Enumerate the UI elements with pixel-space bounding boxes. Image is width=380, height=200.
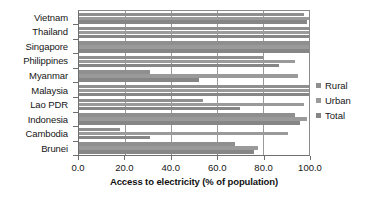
- bar: [79, 150, 254, 153]
- bar-row: [79, 128, 309, 131]
- y-tick-label: Vietnam: [0, 10, 72, 25]
- bar-row: [79, 56, 309, 59]
- bar-row: [79, 103, 309, 106]
- x-tickmark: [264, 156, 265, 160]
- bar: [79, 146, 258, 149]
- bar-row: [79, 17, 309, 20]
- bar-row: [79, 49, 309, 52]
- bar: [79, 31, 309, 34]
- plot-area: [78, 10, 310, 156]
- bar-row: [79, 113, 309, 116]
- bar-group: [79, 141, 309, 155]
- bar-row: [79, 78, 309, 81]
- bar: [79, 17, 309, 20]
- bar: [79, 142, 235, 145]
- bar: [79, 136, 150, 139]
- bar-row: [79, 121, 309, 124]
- bar-row: [79, 41, 309, 44]
- x-axis-title: Access to electricity (% of population): [78, 176, 310, 187]
- legend-label: Total: [325, 111, 345, 121]
- bar-row: [79, 150, 309, 153]
- bar: [79, 45, 309, 48]
- bar: [79, 74, 298, 77]
- legend-item: Total: [316, 108, 378, 123]
- bar-row: [79, 117, 309, 120]
- bar: [79, 20, 307, 23]
- bar: [79, 49, 309, 52]
- bar: [79, 121, 300, 124]
- bar-row: [79, 13, 309, 16]
- bar-row: [79, 70, 309, 73]
- bar-group: [79, 25, 309, 39]
- bar-row: [79, 99, 309, 102]
- bar-row: [79, 93, 309, 96]
- y-axis-category-labels: VietnamThailandSingaporePhilippinesMyanm…: [0, 10, 72, 156]
- bar-row: [79, 142, 309, 145]
- bar-row: [79, 31, 309, 34]
- y-tick-label: Malaysia: [0, 83, 72, 98]
- y-tick-label: Brunei: [0, 141, 72, 156]
- y-tick-label: Singapore: [0, 39, 72, 54]
- chart-legend: RuralUrbanTotal: [316, 78, 378, 123]
- y-tick-label: Thailand: [0, 25, 72, 40]
- y-tick-label: Myanmar: [0, 68, 72, 83]
- bar: [79, 85, 309, 88]
- x-tick-label: 40.0: [162, 161, 181, 174]
- legend-item: Rural: [316, 78, 378, 93]
- bar: [79, 70, 150, 73]
- bar: [79, 35, 309, 38]
- bar-group: [79, 97, 309, 111]
- x-tick-label: 80.0: [254, 161, 273, 174]
- x-tickmark: [171, 156, 172, 160]
- bar: [79, 27, 309, 30]
- bar-row: [79, 60, 309, 63]
- bar: [79, 132, 288, 135]
- x-tickmark: [217, 156, 218, 160]
- y-tick-label: Lao PDR: [0, 98, 72, 113]
- bar: [79, 113, 295, 116]
- bar-row: [79, 64, 309, 67]
- bar: [79, 64, 279, 67]
- bar-group: [79, 112, 309, 126]
- bar-group: [79, 40, 309, 54]
- bar-row: [79, 89, 309, 92]
- bar-group: [79, 83, 309, 97]
- bar-groups: [79, 11, 309, 155]
- bar-row: [79, 74, 309, 77]
- bar-row: [79, 85, 309, 88]
- x-tickmark: [124, 156, 125, 160]
- x-tickmark: [310, 156, 311, 160]
- bar-chart-figure: VietnamThailandSingaporePhilippinesMyanm…: [0, 0, 380, 200]
- bar-row: [79, 107, 309, 110]
- bar: [79, 56, 263, 59]
- legend-label: Urban: [325, 96, 351, 106]
- bar: [79, 103, 304, 106]
- bar-row: [79, 132, 309, 135]
- x-tick-label: 100.0: [298, 161, 322, 174]
- bar-row: [79, 20, 309, 23]
- x-tick-label: 20.0: [115, 161, 134, 174]
- bar: [79, 13, 304, 16]
- bar: [79, 107, 240, 110]
- bar-row: [79, 35, 309, 38]
- bar: [79, 93, 309, 96]
- bar-group: [79, 54, 309, 68]
- bar: [79, 60, 295, 63]
- legend-item: Urban: [316, 93, 378, 108]
- bar-group: [79, 69, 309, 83]
- y-tick-label: Indonesia: [0, 112, 72, 127]
- legend-swatch-icon: [316, 98, 321, 103]
- bar-row: [79, 27, 309, 30]
- x-tickmark: [78, 156, 79, 160]
- y-tick-label: Cambodia: [0, 127, 72, 142]
- legend-swatch-icon: [316, 83, 321, 88]
- bar: [79, 41, 309, 44]
- bar-row: [79, 45, 309, 48]
- x-axis-tickmarks: [78, 156, 310, 160]
- bar-row: [79, 146, 309, 149]
- x-tick-label: 60.0: [208, 161, 227, 174]
- x-tick-label: 0.0: [71, 161, 84, 174]
- y-tick-label: Philippines: [0, 54, 72, 69]
- bar: [79, 99, 203, 102]
- bar: [79, 78, 199, 81]
